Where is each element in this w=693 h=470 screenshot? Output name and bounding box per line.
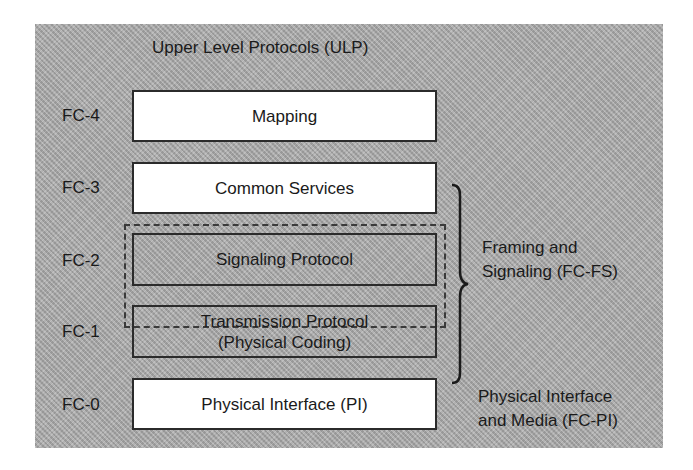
level-label-fc0: FC-0: [62, 395, 100, 415]
layer-box-mapping: Mapping: [132, 90, 437, 142]
layer-label: Physical Interface (PI): [201, 394, 367, 415]
ulp-title: Upper Level Protocols (ULP): [152, 38, 368, 58]
layer-box-signaling-protocol: Signaling Protocol: [132, 233, 437, 286]
level-label-fc4: FC-4: [62, 106, 100, 126]
layer-label: Signaling Protocol: [216, 249, 353, 270]
level-label-fc2: FC-2: [62, 251, 100, 271]
layer-box-physical-interface: Physical Interface (PI): [132, 378, 437, 430]
level-label-fc3: FC-3: [62, 178, 100, 198]
layer-label-line2: (Physical Coding): [218, 332, 351, 353]
framing-signaling-label: Framing and Signaling (FC-FS): [482, 236, 618, 284]
physical-line2: and Media (FC-PI): [478, 409, 618, 433]
layer-box-transmission-protocol: Transmission Protocol (Physical Coding): [132, 305, 437, 358]
physical-media-label: Physical Interface and Media (FC-PI): [478, 385, 618, 433]
layer-label-line1: Transmission Protocol: [201, 311, 369, 332]
curly-brace-icon: [450, 183, 472, 385]
layer-label: Common Services: [215, 178, 354, 199]
layer-box-common-services: Common Services: [132, 162, 437, 214]
layer-label: Mapping: [252, 106, 317, 127]
framing-line1: Framing and: [482, 236, 618, 260]
level-label-fc1: FC-1: [62, 322, 100, 342]
physical-line1: Physical Interface: [478, 385, 618, 409]
framing-line2: Signaling (FC-FS): [482, 260, 618, 284]
